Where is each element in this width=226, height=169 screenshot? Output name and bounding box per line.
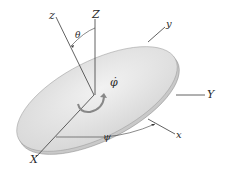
Z-label: Z (91, 8, 100, 21)
y-axis (148, 27, 165, 42)
theta-label: θ (75, 30, 81, 40)
x-axis (148, 119, 175, 134)
psi-label: ψ (103, 131, 111, 142)
euler-angle-disk-diagram: Z z θ y Y x X ψ φ̇ (0, 0, 226, 169)
z-label: z (48, 9, 55, 22)
phi-dot-label: φ̇ (110, 76, 118, 89)
X-label: X (29, 153, 39, 166)
x-label: x (176, 129, 182, 140)
disk (1, 25, 194, 169)
Y-label: Y (207, 88, 216, 101)
y-label: y (165, 18, 172, 29)
